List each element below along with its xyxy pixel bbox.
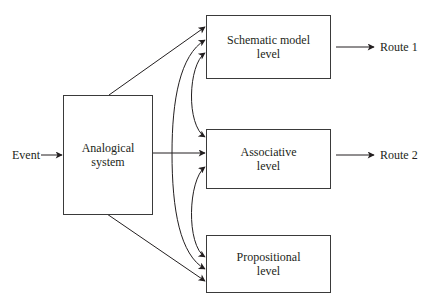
schematic-associative-bidirectional-arrow <box>191 53 205 137</box>
route-1-label: Route 1 <box>380 40 418 54</box>
schematic-model-level-box: Schematic model level <box>206 15 331 79</box>
analogical-system-line2: system <box>82 155 135 169</box>
schematic-line2: level <box>227 47 310 61</box>
event-label: Event <box>12 148 40 162</box>
propositional-level-box: Propositional level <box>206 235 331 293</box>
route-2-label: Route 2 <box>380 148 418 162</box>
analogical-system-line1: Analogical <box>82 141 135 155</box>
schematic-line1: Schematic model <box>227 33 310 47</box>
associative-line2: level <box>241 159 297 173</box>
associative-line1: Associative <box>241 145 297 159</box>
analogical-to-schematic-arrow <box>109 27 205 95</box>
propositional-line2: level <box>236 264 300 278</box>
analogical-to-propositional-arrow <box>107 214 205 281</box>
analogical-system-box: Analogical system <box>63 95 153 215</box>
propositional-line1: Propositional <box>236 250 300 264</box>
associative-level-box: Associative level <box>206 129 331 189</box>
curve-to-schematic-arrow <box>172 40 205 153</box>
associative-propositional-bidirectional-arrow <box>191 167 205 257</box>
